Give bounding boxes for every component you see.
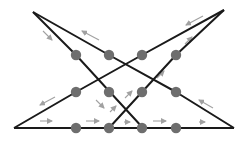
node-n8 bbox=[171, 87, 181, 97]
node-n7 bbox=[137, 87, 147, 97]
edges bbox=[14, 10, 234, 128]
direction-arrows bbox=[40, 16, 213, 122]
arrow-icon bbox=[82, 31, 99, 40]
arrow-icon bbox=[96, 100, 104, 108]
arrow-icon bbox=[43, 31, 52, 40]
node-n11 bbox=[137, 123, 147, 133]
node-n6 bbox=[104, 87, 114, 97]
diagram-canvas bbox=[0, 0, 246, 142]
node-n12 bbox=[171, 123, 181, 133]
arrow-icon bbox=[125, 91, 132, 98]
arrow-icon bbox=[40, 97, 55, 105]
node-n2 bbox=[104, 50, 114, 60]
node-n3 bbox=[137, 50, 147, 60]
node-n4 bbox=[171, 50, 181, 60]
node-n9 bbox=[71, 123, 81, 133]
node-n5 bbox=[71, 87, 81, 97]
arrow-icon bbox=[110, 106, 116, 112]
line-1 bbox=[33, 12, 143, 128]
node-n1 bbox=[71, 50, 81, 60]
line-3 bbox=[14, 10, 224, 128]
node-n10 bbox=[104, 123, 114, 133]
network-diagram bbox=[0, 0, 246, 142]
